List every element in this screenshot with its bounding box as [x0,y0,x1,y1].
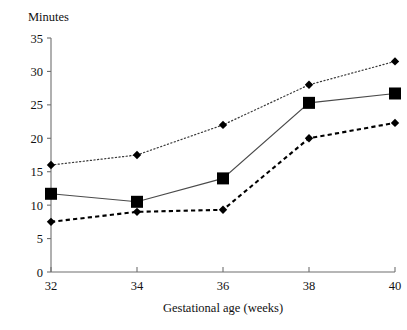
y-axis-tick-marks [47,38,51,272]
data-point-diamond [391,57,399,65]
series-upper-dotted-series [47,57,399,169]
x-tick-label: 32 [45,279,58,293]
x-tick-label: 34 [131,279,144,293]
y-axis-tick-labels: 05101520253035 [31,32,44,280]
y-tick-label: 5 [37,232,43,246]
data-point-diamond [219,206,227,214]
data-point-square [217,172,229,184]
data-point-square [45,188,57,200]
y-axis-title-text: Minutes [28,10,69,24]
data-point-diamond [305,134,313,142]
y-tick-label: 0 [37,266,43,280]
y-tick-label: 25 [31,98,44,112]
data-point-square [303,97,315,109]
series-line [51,61,395,165]
chart-figure: Minutes 05101520253035 3234363840 Gestat… [0,0,407,330]
y-tick-label: 35 [31,32,44,46]
y-tick-label: 10 [31,199,44,213]
data-point-square [131,196,143,208]
y-tick-label: 20 [31,132,44,146]
data-point-diamond [47,161,55,169]
line-chart: Minutes 05101520253035 3234363840 Gestat… [0,0,407,330]
data-point-diamond [219,121,227,129]
x-axis-tick-marks [51,267,395,272]
data-point-diamond [133,208,141,216]
data-point-diamond [47,218,55,226]
x-tick-label: 38 [303,279,316,293]
data-series-layer [45,57,401,226]
data-point-diamond [305,81,313,89]
x-axis-tick-labels: 3234363840 [45,279,402,293]
data-point-diamond [133,151,141,159]
x-axis-title-text: Gestational age (weeks) [163,301,283,315]
series-line [51,93,395,201]
axis-lines [51,38,395,272]
data-point-diamond [391,119,399,127]
y-tick-label: 30 [31,65,44,79]
series-lower-dashed-series [47,119,399,226]
series-middle-solid-series [45,87,401,207]
data-point-square [389,87,401,99]
x-tick-label: 36 [217,279,230,293]
x-tick-label: 40 [389,279,402,293]
y-axis-title: Minutes [28,10,69,24]
x-axis-title: Gestational age (weeks) [163,301,283,315]
y-tick-label: 15 [31,165,44,179]
